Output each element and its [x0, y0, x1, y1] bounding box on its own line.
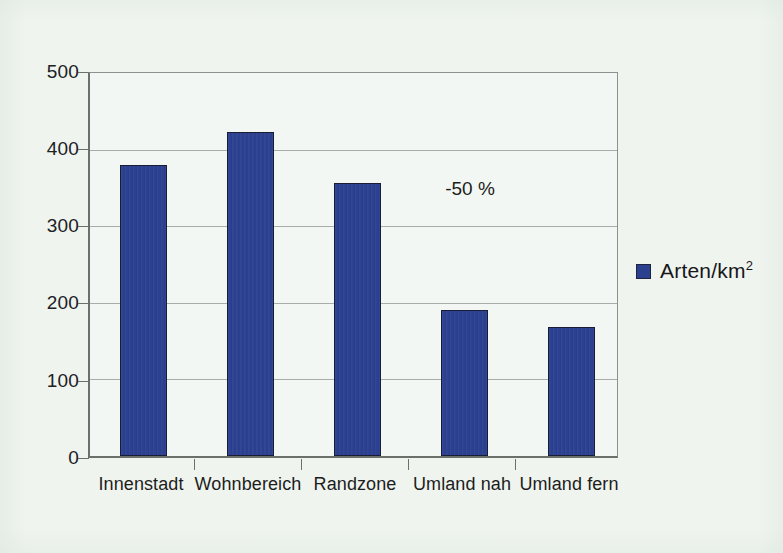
bar-innenstadt[interactable] [120, 165, 167, 456]
y-tick-label-400: 400 [9, 138, 79, 160]
y-tick-label-100: 100 [9, 370, 79, 392]
bar-umland-nah[interactable] [441, 310, 488, 456]
bar-randzone[interactable] [334, 183, 381, 457]
plot-area [88, 72, 618, 458]
x-tick-label-umland-fern: Umland fern [519, 474, 618, 495]
x-tick-mark-1 [194, 459, 195, 470]
annotation-minus-50-percent: -50 % [445, 178, 495, 200]
x-tick-label-randzone: Randzone [314, 474, 397, 495]
y-tick-label-200: 200 [9, 292, 79, 314]
y-tick-label-300: 300 [9, 215, 79, 237]
chart-figure: 500 400 300 200 100 0 Innenstadt Wohnber… [0, 0, 783, 553]
legend-label-arten-pro-km2: Arten/km2 [660, 259, 753, 283]
legend-color-swatch-arten-pro-km2 [636, 264, 651, 279]
y-tick-label-0: 0 [9, 447, 79, 469]
x-tick-mark-2 [301, 459, 302, 470]
legend: Arten/km2 [636, 259, 753, 283]
bar-wohnbereich[interactable] [227, 132, 274, 456]
bar-umland-fern[interactable] [548, 327, 595, 456]
x-tick-label-wohnbereich: Wohnbereich [195, 474, 302, 495]
x-tick-mark-4 [515, 459, 516, 470]
y-tick-mark-0 [78, 458, 89, 459]
legend-label-exponent: 2 [746, 258, 753, 273]
x-tick-label-umland-nah: Umland nah [413, 474, 511, 495]
y-tick-label-500: 500 [9, 61, 79, 83]
legend-label-text: Arten/km [660, 259, 746, 282]
x-tick-mark-3 [408, 459, 409, 470]
gridline-400 [90, 150, 617, 151]
x-tick-label-innenstadt: Innenstadt [98, 474, 183, 495]
